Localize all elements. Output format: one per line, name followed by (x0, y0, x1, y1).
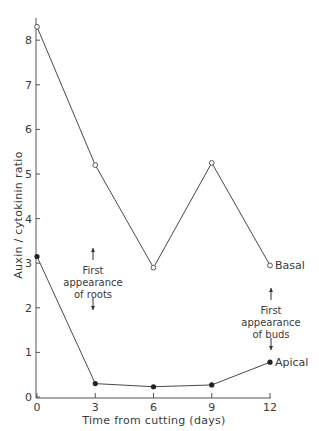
annotation-buds: Firstappearanceof buds (241, 288, 300, 350)
x-tick-label: 3 (92, 401, 99, 414)
x-tick-label: 12 (263, 401, 277, 414)
data-point-open (93, 163, 98, 168)
y-tick-label: 4 (25, 213, 32, 226)
data-point-filled (34, 254, 39, 259)
data-point-filled (267, 360, 272, 365)
y-tick-label: 0 (25, 391, 32, 404)
series-basal: Basal (35, 24, 305, 272)
auxin-cytokinin-chart: 012345678 036912 Auxin / cytokinin ratio… (0, 0, 319, 431)
data-point-open (35, 24, 40, 29)
arrow-down-icon (91, 306, 95, 310)
y-tick-label: 8 (25, 34, 32, 47)
series-label-basal: Basal (275, 259, 305, 272)
annotation-text: appearance (241, 317, 300, 328)
data-point-open (268, 263, 273, 268)
annotation-text: appearance (63, 277, 122, 288)
y-axis: 012345678 (25, 18, 40, 404)
x-axis-title: Time from cutting (days) (81, 414, 225, 427)
y-tick-label: 1 (25, 346, 32, 359)
data-point-filled (93, 381, 98, 386)
x-axis: 036912 (34, 393, 278, 414)
series-label-apical: Apical (275, 356, 308, 369)
y-tick-label: 3 (25, 257, 32, 270)
y-tick-label: 6 (25, 123, 32, 136)
x-tick-label: 9 (208, 401, 215, 414)
data-point-open (151, 265, 156, 270)
y-tick-label: 5 (25, 168, 32, 181)
y-axis-title: Auxin / cytokinin ratio (12, 151, 25, 279)
x-tick-label: 6 (150, 401, 157, 414)
annotation-roots: Firstappearanceof roots (63, 248, 122, 310)
annotation-text: First (260, 305, 281, 316)
data-point-filled (209, 382, 214, 387)
arrow-down-icon (269, 346, 273, 350)
arrow-up-icon (91, 248, 95, 252)
data-point-open (209, 160, 214, 165)
annotation-text: First (82, 265, 103, 276)
arrow-up-icon (269, 288, 273, 292)
y-tick-label: 7 (25, 79, 32, 92)
x-tick-label: 0 (34, 401, 41, 414)
y-tick-label: 2 (25, 302, 32, 315)
data-point-filled (151, 384, 156, 389)
